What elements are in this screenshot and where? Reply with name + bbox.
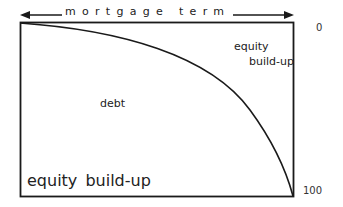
mortgage-term-label: mortgage term bbox=[62, 6, 233, 18]
axis-value-top: 0 bbox=[316, 22, 322, 33]
arrow-left-icon bbox=[20, 11, 30, 19]
axis-value-bottom: 100 bbox=[303, 185, 322, 196]
equity-region-label-line2: build-up bbox=[249, 55, 294, 68]
equity-region-label-line1: equity bbox=[234, 40, 269, 53]
equity-buildup-caption: equity build-up bbox=[27, 171, 151, 190]
arrow-right-icon bbox=[284, 11, 294, 19]
debt-region-label: debt bbox=[100, 97, 125, 110]
